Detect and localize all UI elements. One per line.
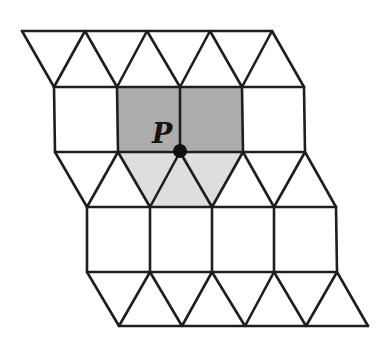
point-p-label: P — [151, 118, 173, 149]
tiling-diagram: P — [0, 0, 387, 350]
point-p-dot — [173, 144, 187, 158]
light-shaded-triangles — [118, 152, 243, 207]
tiling-edges — [22, 31, 368, 326]
